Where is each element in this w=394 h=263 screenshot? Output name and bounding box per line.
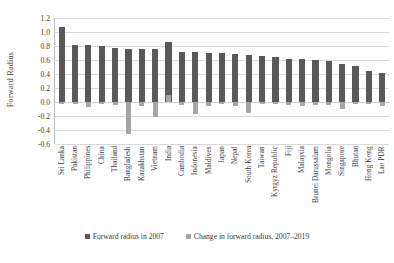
bar-group bbox=[95, 18, 108, 144]
x-axis-tick-label: Thailand bbox=[111, 146, 119, 220]
x-axis-tick-label: Fiji bbox=[285, 146, 293, 220]
x-axis-tick-label: Nepal bbox=[231, 146, 239, 220]
bar-change-forward-radius bbox=[366, 102, 371, 104]
bar-forward-radius-2007 bbox=[72, 45, 78, 102]
bar-forward-radius-2007 bbox=[59, 27, 65, 102]
x-axis-tick-label: Bhutan bbox=[352, 146, 360, 220]
x-axis-tick-label: Hong Kong bbox=[365, 146, 373, 220]
x-axis-tick-label: Cambodia bbox=[178, 146, 186, 220]
legend-label: Forward radius in 2007 bbox=[93, 232, 164, 241]
y-axis-tick-label: -0.2 bbox=[38, 112, 50, 121]
bar-change-forward-radius bbox=[113, 102, 118, 105]
bar-forward-radius-2007 bbox=[179, 52, 185, 102]
bar-change-forward-radius bbox=[286, 102, 291, 105]
bar-group bbox=[189, 18, 202, 144]
y-axis-tick-label: 0.8 bbox=[41, 42, 51, 51]
bar-group bbox=[135, 18, 148, 144]
bar-group bbox=[322, 18, 335, 144]
legend-item[interactable]: Forward radius in 2007 bbox=[85, 232, 164, 241]
x-axis-tick-label: Sri Lanka bbox=[58, 146, 66, 220]
bar-change-forward-radius bbox=[59, 102, 64, 104]
bar-change-forward-radius bbox=[313, 102, 318, 105]
bar-group bbox=[202, 18, 215, 144]
bar-change-forward-radius bbox=[139, 102, 144, 106]
bar-forward-radius-2007 bbox=[112, 48, 118, 102]
bar-change-forward-radius bbox=[273, 102, 278, 104]
bar-forward-radius-2007 bbox=[152, 49, 158, 102]
bar-change-forward-radius bbox=[153, 102, 158, 117]
bar-change-forward-radius bbox=[353, 102, 358, 104]
bar-forward-radius-2007 bbox=[246, 55, 252, 102]
bar-forward-radius-2007 bbox=[219, 53, 225, 102]
bar-forward-radius-2007 bbox=[272, 57, 278, 102]
bar-group bbox=[269, 18, 282, 144]
bar-forward-radius-2007 bbox=[259, 56, 265, 102]
bar-group bbox=[162, 18, 175, 144]
y-axis-tick-label: 0.6 bbox=[41, 56, 51, 65]
bar-change-forward-radius bbox=[166, 95, 171, 102]
bar-forward-radius-2007 bbox=[312, 60, 318, 102]
bar-group bbox=[282, 18, 295, 144]
bar-change-forward-radius bbox=[206, 102, 211, 106]
x-axis-tick-label: Singapore bbox=[338, 146, 346, 220]
bar-group bbox=[362, 18, 375, 144]
y-axis-tick-label: 0.4 bbox=[41, 70, 51, 79]
bar-group bbox=[229, 18, 242, 144]
bar-group bbox=[376, 18, 389, 144]
bar-change-forward-radius bbox=[260, 102, 265, 104]
x-axis-tick-label: Philippines bbox=[84, 146, 92, 220]
bar-forward-radius-2007 bbox=[139, 49, 145, 102]
bar-change-forward-radius bbox=[193, 102, 198, 114]
x-axis-tick-label: Bangladesh bbox=[124, 146, 132, 220]
x-axis-tick-label: Lao PDR bbox=[378, 146, 386, 220]
legend-item[interactable]: Change in forward radius, 2007–2019 bbox=[186, 232, 309, 241]
bar-change-forward-radius bbox=[126, 102, 131, 134]
y-axis-tick-label: 1.2 bbox=[41, 14, 51, 23]
bar-forward-radius-2007 bbox=[326, 61, 332, 102]
y-axis-tick-label: -0.4 bbox=[38, 126, 50, 135]
x-axis-tick-label: China bbox=[98, 146, 106, 220]
bar-change-forward-radius bbox=[300, 102, 305, 106]
x-axis-tick-label: Kyrgyz Republic bbox=[271, 146, 279, 220]
y-axis-tick-label: 0.0 bbox=[41, 98, 51, 107]
bar-forward-radius-2007 bbox=[286, 59, 292, 102]
x-axis-tick-label: South Korea bbox=[245, 146, 253, 220]
x-axis-category-labels: Sri LankaPakistanPhilippinesChinaThailan… bbox=[55, 146, 389, 220]
chart-legend: Forward radius in 2007Change in forward … bbox=[0, 232, 394, 241]
bar-forward-radius-2007 bbox=[232, 54, 238, 102]
bar-forward-radius-2007 bbox=[85, 45, 91, 102]
x-axis-tick-label: Maldives bbox=[205, 146, 213, 220]
bar-group bbox=[55, 18, 68, 144]
bar-change-forward-radius bbox=[86, 102, 91, 107]
bar-group bbox=[242, 18, 255, 144]
bar-forward-radius-2007 bbox=[206, 53, 212, 102]
bar-group bbox=[255, 18, 268, 144]
x-axis-tick-label: Brunei Darussalam bbox=[312, 146, 320, 220]
x-axis-tick-label: Indonesia bbox=[191, 146, 199, 220]
bar-group bbox=[309, 18, 322, 144]
bar-forward-radius-2007 bbox=[299, 59, 305, 102]
x-axis-tick-label: Pakistan bbox=[71, 146, 79, 220]
bar-group bbox=[108, 18, 121, 144]
bar-group bbox=[149, 18, 162, 144]
bar-group bbox=[82, 18, 95, 144]
y-axis-tick-labels: 1.21.00.80.60.40.20.0-0.2-0.4-0.6 bbox=[20, 18, 53, 144]
bar-group bbox=[68, 18, 81, 144]
bar-forward-radius-2007 bbox=[366, 71, 372, 102]
x-axis-tick-label: Vietnam bbox=[151, 146, 159, 220]
x-axis-tick-label: India bbox=[165, 146, 173, 220]
bar-forward-radius-2007 bbox=[339, 64, 345, 103]
bar-forward-radius-2007 bbox=[352, 66, 358, 102]
bar-forward-radius-2007 bbox=[165, 42, 171, 102]
legend-swatch-icon bbox=[85, 234, 90, 239]
bar-group bbox=[295, 18, 308, 144]
bar-forward-radius-2007 bbox=[99, 46, 105, 102]
bar-change-forward-radius bbox=[73, 102, 78, 104]
bar-group bbox=[175, 18, 188, 144]
bar-change-forward-radius bbox=[326, 102, 331, 105]
legend-label: Change in forward radius, 2007–2019 bbox=[194, 232, 309, 241]
bar-group bbox=[349, 18, 362, 144]
bar-forward-radius-2007 bbox=[192, 52, 198, 102]
bar-group bbox=[336, 18, 349, 144]
bar-change-forward-radius bbox=[340, 102, 345, 109]
